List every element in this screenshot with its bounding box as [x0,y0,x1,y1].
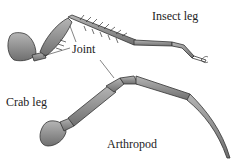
crab-leg-label: Crab leg [6,96,47,108]
insect-leg-label: Insect leg [152,10,198,22]
joint-pointer-upper [70,26,76,42]
arthropod-leg-diagram: Insect leg Joint Crab leg Arthropod [0,0,239,165]
joint-label: Joint [72,43,95,55]
arthropod-label: Arthropod [107,138,157,150]
arthropod-pointer [100,60,114,78]
